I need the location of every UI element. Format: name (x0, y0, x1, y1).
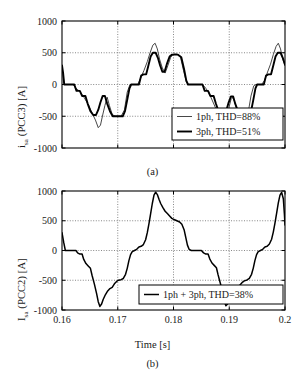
x-tick-label: 0.19 (221, 314, 239, 325)
x-tick-label: 0.16 (53, 314, 71, 325)
x-tick-label: 0.17 (109, 314, 127, 325)
y-tick-label: -1000 (34, 143, 57, 154)
y-tick-label: -500 (39, 275, 57, 286)
y-tick-label: 500 (42, 47, 57, 58)
subcaption-a: (a) (0, 166, 305, 177)
legend-label: 1ph + 3ph, THD=38% (163, 289, 253, 300)
plot-area-b: -1000-500050010000.160.170.180.190.21ph … (0, 183, 305, 338)
x-tick-label: 0.18 (165, 314, 183, 325)
legend-label: 3ph, THD=51% (196, 126, 260, 137)
y-tick-label: 0 (52, 245, 57, 256)
y-tick-label: 1000 (37, 186, 57, 197)
x-tick-label: 0.2 (279, 314, 292, 325)
y-tick-label: 0 (52, 79, 57, 90)
data-series-line (62, 53, 285, 117)
y-tick-label: 1000 (37, 16, 57, 27)
subcaption-b: (b) (0, 358, 305, 369)
legend-label: 1ph, THD=88% (196, 111, 260, 122)
legend: 1ph, THD=88%3ph, THD=51% (172, 108, 283, 140)
x-axis-title: Time [s] (0, 339, 305, 350)
figure-container: isa (PCC3) [A] -1000-500050010001ph, THD… (0, 0, 305, 380)
legend: 1ph + 3ph, THD=38% (139, 285, 283, 304)
chart-panel-b: Isa (PCC2) [A] -1000-500050010000.160.17… (0, 183, 305, 380)
plot-area-a: -1000-500050010001ph, THD=88%3ph, THD=51… (0, 0, 305, 165)
chart-panel-a: isa (PCC3) [A] -1000-500050010001ph, THD… (0, 0, 305, 190)
y-tick-label: 500 (42, 215, 57, 226)
y-tick-label: -500 (39, 111, 57, 122)
